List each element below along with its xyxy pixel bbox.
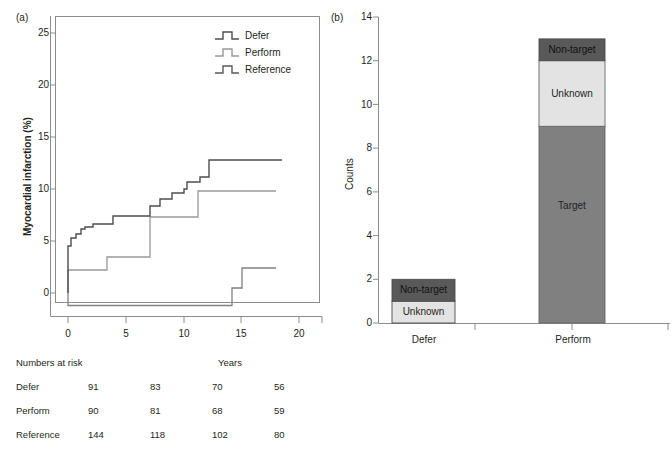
- legend-label-defer: Defer: [245, 30, 269, 41]
- risk-cell: 118: [150, 429, 212, 440]
- legend-label-reference: Reference: [245, 64, 291, 75]
- curve-perform: [68, 191, 276, 293]
- risk-cell: 80: [274, 429, 336, 440]
- bar-perform-nontarget-label: Non-target: [539, 44, 605, 55]
- risk-table-header-row: Numbers at risk Years: [16, 350, 336, 374]
- risk-row-label: Perform: [16, 405, 88, 416]
- legend-item-defer: Defer: [214, 28, 291, 43]
- risk-cell: 144: [88, 429, 150, 440]
- panel-b-ytick-marks: [373, 17, 379, 323]
- step-glyph-icon: [214, 47, 240, 58]
- risk-cell: 91: [88, 381, 150, 392]
- legend-item-perform: Perform: [214, 45, 291, 60]
- legend-label-perform: Perform: [245, 47, 281, 58]
- risk-row-label: Defer: [16, 381, 88, 392]
- panel-b-category-defer: Defer: [393, 334, 455, 345]
- risk-row-label: Reference: [16, 429, 88, 440]
- panel-b-xtick-marks: [475, 324, 668, 331]
- risk-cell: 81: [150, 405, 212, 416]
- risk-cell: 56: [274, 381, 336, 392]
- risk-table-years-header: Years: [218, 357, 242, 368]
- risk-cell: 90: [88, 405, 150, 416]
- panel-a: (a) Myocardial infarction (%) 0 5 10 15 …: [0, 0, 335, 345]
- panel-b-category-perform: Perform: [540, 334, 606, 345]
- risk-cell: 83: [150, 381, 212, 392]
- figure-root: (a) Myocardial infarction (%) 0 5 10 15 …: [0, 0, 672, 449]
- bar-defer-nontarget-label: Non-target: [392, 284, 455, 295]
- risk-table-title: Numbers at risk: [16, 357, 88, 368]
- panel-b-plot: [330, 0, 672, 345]
- numbers-at-risk-table: Numbers at risk Years Defer 91 83 70 56 …: [16, 350, 336, 446]
- risk-cell: 70: [212, 381, 274, 392]
- risk-cell: 102: [212, 429, 274, 440]
- panel-b: (b) Counts 0 2 4 6 8 10 12 14: [330, 0, 672, 345]
- curve-reference: [68, 268, 276, 306]
- step-glyph-icon: [214, 30, 240, 41]
- bar-perform-target-label: Target: [539, 200, 605, 211]
- panel-a-legend: Defer Perform Reference: [214, 28, 291, 79]
- bar-perform-target: [539, 126, 605, 323]
- step-glyph-icon: [214, 64, 240, 75]
- legend-item-reference: Reference: [214, 62, 291, 77]
- curve-defer: [68, 160, 282, 293]
- bar-defer-unknown-label: Unknown: [392, 306, 455, 317]
- risk-table-row-reference: Reference 144 118 102 80: [16, 422, 336, 446]
- bar-perform-unknown-label: Unknown: [539, 88, 605, 99]
- risk-cell: 59: [274, 405, 336, 416]
- panel-a-xtick-marks: [68, 317, 322, 324]
- risk-table-row-perform: Perform 90 81 68 59: [16, 398, 336, 422]
- risk-cell: 68: [212, 405, 274, 416]
- risk-table-row-defer: Defer 91 83 70 56: [16, 374, 336, 398]
